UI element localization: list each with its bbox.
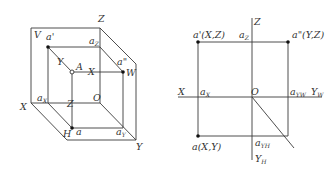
label-a-y: aY bbox=[116, 126, 127, 138]
point-a bbox=[196, 134, 200, 138]
right-projection-figure: Z a'(X,Z) aZ a"(Y,Z) X aX O aYW YW a(X,Y… bbox=[177, 16, 324, 165]
label-a-prime: a'(X,Z) bbox=[193, 29, 225, 40]
label-a-z: aZ bbox=[89, 35, 100, 47]
label-y-h: YH bbox=[255, 153, 267, 165]
label-y-mid: Y bbox=[57, 56, 65, 67]
label-x: X bbox=[177, 86, 186, 97]
point-a-dprime bbox=[286, 40, 290, 44]
label-a-yh: aYH bbox=[255, 137, 271, 149]
label-a: a(X,Y) bbox=[192, 141, 221, 152]
point-a-prime bbox=[196, 40, 200, 44]
label-y-bottom: Y bbox=[136, 141, 144, 152]
label-a-z: aZ bbox=[239, 29, 250, 41]
label-A: A bbox=[75, 61, 83, 72]
label-a: a bbox=[76, 126, 82, 137]
left-cube-figure: Z V a' aZ a" Y A X W aX Z O X H a aY Y bbox=[19, 13, 144, 152]
label-y-w: YW bbox=[311, 86, 324, 98]
label-o: O bbox=[93, 92, 101, 103]
label-a-dprime: a" bbox=[117, 56, 127, 67]
projection-diagram: Z V a' aZ a" Y A X W aX Z O X H a aY Y Z bbox=[0, 0, 335, 173]
label-a-dprime: a"(Y,Z) bbox=[292, 29, 324, 40]
label-z: Z bbox=[253, 16, 261, 27]
h-plane-left-edge bbox=[31, 103, 67, 140]
point-a-prime bbox=[46, 45, 50, 49]
label-o: O bbox=[251, 86, 259, 97]
label-x-left: X bbox=[19, 101, 28, 112]
label-z-top: Z bbox=[97, 13, 105, 24]
label-z-mid: Z bbox=[66, 98, 74, 109]
point-a-dprime bbox=[121, 70, 125, 74]
label-a-yw: aYW bbox=[290, 86, 307, 98]
label-w: W bbox=[126, 67, 137, 78]
label-h: H bbox=[62, 128, 72, 139]
label-a-x: aX bbox=[200, 86, 211, 98]
label-v: V bbox=[34, 29, 42, 40]
label-a-prime: a' bbox=[46, 31, 54, 42]
label-x-mid: X bbox=[87, 66, 96, 77]
point-A bbox=[70, 70, 74, 74]
label-a-x: aX bbox=[37, 92, 48, 104]
